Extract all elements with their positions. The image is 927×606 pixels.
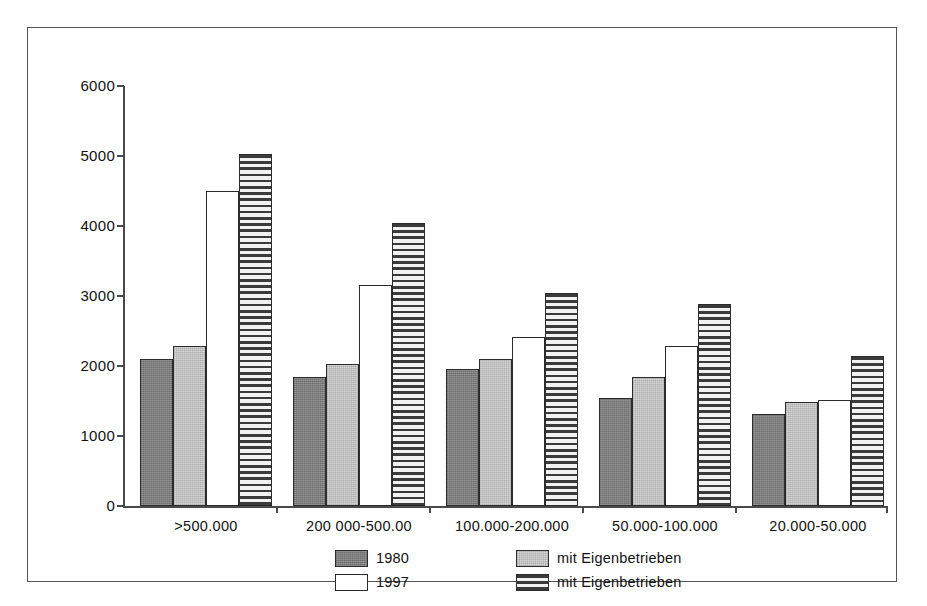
x-axis-category-label: 20.000-50.000 — [769, 518, 866, 534]
x-axis-tick — [429, 506, 431, 513]
y-axis-tick — [117, 295, 124, 297]
legend-label: 1997 — [376, 573, 409, 592]
bar — [599, 398, 632, 506]
x-axis-tick — [582, 506, 584, 513]
bar — [818, 400, 851, 506]
x-axis-tick — [886, 506, 888, 513]
y-axis-tick-label: 1000 — [80, 427, 115, 444]
y-axis-tick-label: 3000 — [80, 287, 115, 304]
bar — [206, 191, 239, 506]
y-axis-tick — [117, 365, 124, 367]
x-axis-category-label: 100.000-200.000 — [455, 518, 569, 534]
y-axis-tick — [117, 155, 124, 157]
y-axis-tick — [117, 505, 124, 507]
bar — [698, 304, 731, 506]
legend-swatch — [335, 550, 368, 567]
y-axis-tick — [117, 85, 124, 87]
bar — [785, 402, 818, 506]
chart-outer-border: 0100020003000400050006000 >500.000200 00… — [27, 27, 897, 582]
bar — [392, 223, 425, 507]
y-axis-tick-label: 0 — [107, 497, 116, 514]
x-axis-category-label: >500.000 — [174, 518, 237, 534]
legend-swatch — [516, 550, 549, 567]
x-axis-category-label: 50.000-100.000 — [612, 518, 718, 534]
bar — [545, 293, 578, 507]
legend-swatch — [516, 574, 549, 591]
chart-legend: 19801997mit Eigenbetriebenmit Eigenbetri… — [335, 549, 765, 597]
y-axis-tick — [117, 435, 124, 437]
legend-label: mit Eigenbetrieben — [557, 549, 682, 568]
figure-frame: 0100020003000400050006000 >500.000200 00… — [0, 0, 927, 606]
bar — [752, 414, 785, 506]
legend-label: mit Eigenbetrieben — [557, 573, 682, 592]
bar — [632, 377, 665, 507]
bar — [851, 356, 884, 507]
y-axis-tick-label: 5000 — [80, 147, 115, 164]
x-axis-tick — [276, 506, 278, 513]
y-axis-tick-label: 4000 — [80, 217, 115, 234]
bar — [239, 154, 272, 506]
bar — [512, 337, 545, 506]
bar — [173, 346, 206, 506]
legend-label: 1980 — [376, 549, 409, 568]
y-axis-tick — [117, 225, 124, 227]
bar — [446, 369, 479, 506]
bar — [326, 364, 359, 506]
bar — [140, 359, 173, 506]
y-axis-tick-label: 6000 — [80, 77, 115, 94]
bar — [665, 346, 698, 506]
x-axis-category-label: 200 000-500.00 — [306, 518, 412, 534]
legend-swatch — [335, 574, 368, 591]
x-axis-line — [123, 506, 888, 508]
x-axis-tick — [735, 506, 737, 513]
bar — [293, 377, 326, 507]
bar — [479, 359, 512, 506]
bar — [359, 285, 392, 506]
y-axis-tick-label: 2000 — [80, 357, 115, 374]
plot-area: 0100020003000400050006000 >500.000200 00… — [123, 86, 888, 506]
